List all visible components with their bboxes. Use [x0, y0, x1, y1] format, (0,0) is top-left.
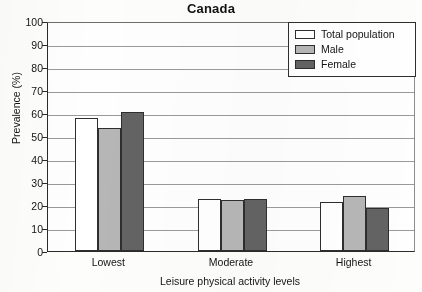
y-axis-tick-label: 50: [3, 131, 43, 143]
y-axis-tick-mark: [42, 137, 47, 138]
legend-item-male: Male: [295, 42, 410, 57]
bar-lowest-total: [75, 118, 98, 251]
legend-item-female: Female: [295, 57, 410, 72]
y-axis-tick-label: 60: [3, 108, 43, 120]
bar-lowest-male: [98, 128, 121, 251]
legend-swatch-total-population: [295, 30, 315, 39]
x-axis-category-label: Moderate: [209, 256, 253, 268]
bar-highest-male: [343, 196, 366, 251]
y-axis-tick-label: 20: [3, 200, 43, 212]
y-axis-tick-mark: [42, 229, 47, 230]
gridline: [48, 115, 414, 116]
legend-label-total-population: Total population: [321, 29, 395, 40]
legend-item-total-population: Total population: [295, 27, 410, 42]
y-axis-tick-label: 10: [3, 223, 43, 235]
bar-moderate-male: [221, 200, 244, 251]
y-axis-tick-label: 90: [3, 39, 43, 51]
y-axis-tick-mark: [42, 114, 47, 115]
bar-moderate-female: [244, 199, 267, 251]
x-axis-title: Leisure physical activity levels: [44, 275, 416, 287]
y-axis-tick-label: 0: [3, 246, 43, 258]
chart-title: Canada: [0, 1, 422, 16]
x-axis-category-label: Lowest: [92, 256, 125, 268]
legend-swatch-male: [295, 45, 315, 54]
legend-label-female: Female: [321, 59, 356, 70]
y-axis-tick-mark: [42, 183, 47, 184]
y-axis-tick-label: 100: [3, 16, 43, 28]
y-axis-tick-mark: [42, 206, 47, 207]
y-axis-tick-label: 70: [3, 85, 43, 97]
legend-label-male: Male: [321, 44, 344, 55]
y-axis-tick-mark: [42, 68, 47, 69]
chart-figure: Canada Prevalence (%) Leisure physical a…: [0, 0, 422, 292]
y-axis-tick-label: 40: [3, 154, 43, 166]
y-axis-tick-mark: [42, 252, 47, 253]
chart-legend: Total population Male Female: [288, 22, 416, 77]
bar-highest-total: [320, 202, 343, 251]
gridline: [48, 92, 414, 93]
y-axis-tick-mark: [42, 91, 47, 92]
legend-swatch-female: [295, 60, 315, 69]
bar-highest-female: [366, 208, 389, 251]
bar-lowest-female: [121, 112, 144, 251]
bar-moderate-total: [198, 199, 221, 251]
y-axis-tick-label: 30: [3, 177, 43, 189]
y-axis-tick-mark: [42, 45, 47, 46]
y-axis-tick-mark: [42, 22, 47, 23]
y-axis-tick-label: 80: [3, 62, 43, 74]
x-axis-category-label: Highest: [336, 256, 372, 268]
y-axis-tick-mark: [42, 160, 47, 161]
